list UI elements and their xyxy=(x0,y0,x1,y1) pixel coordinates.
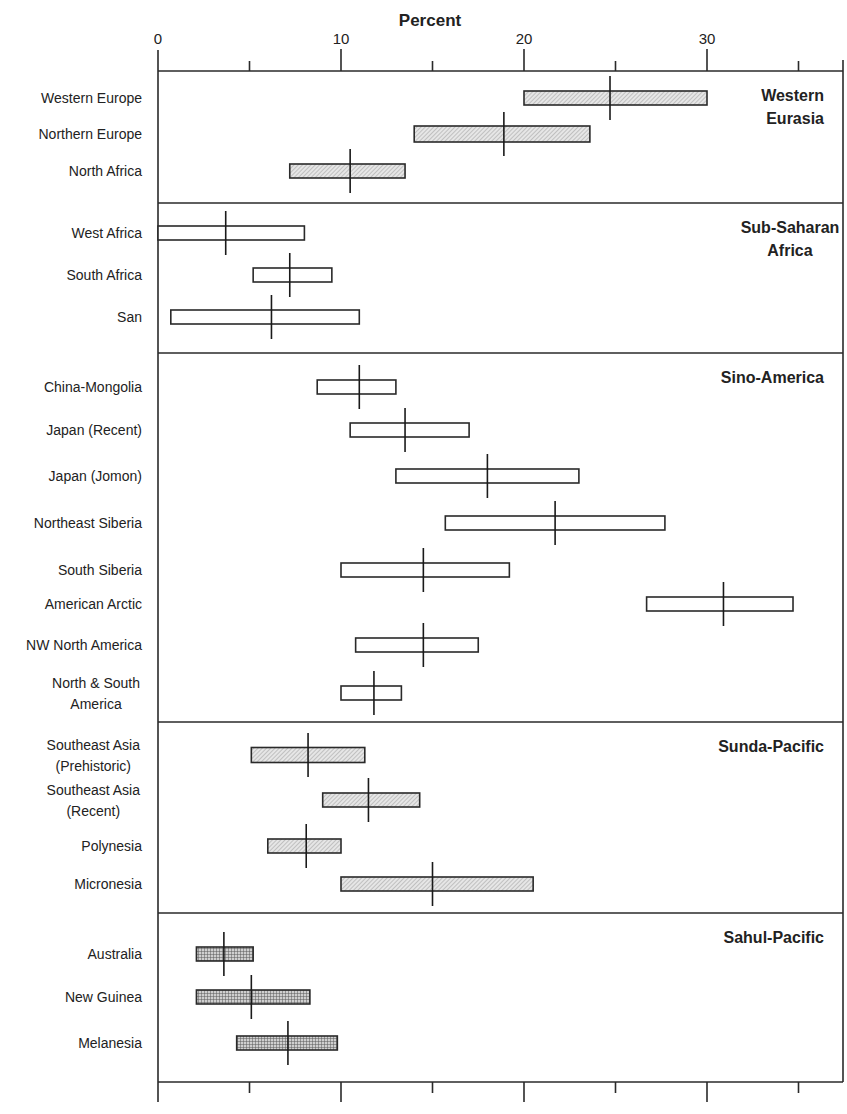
data-row: NW North America xyxy=(26,623,478,667)
chart-panels: WesternEurasiaWestern EuropeNorthern Eur… xyxy=(26,71,843,1082)
data-row: Southeast Asia(Prehistoric) xyxy=(47,733,365,777)
data-row: Japan (Jomon) xyxy=(49,454,579,498)
row-label: Polynesia xyxy=(81,838,142,854)
range-bar xyxy=(524,91,707,105)
data-row: South Africa xyxy=(67,253,332,297)
group-label: Sino-America xyxy=(721,369,824,386)
x-tick-label: 10 xyxy=(333,30,350,47)
x-tick-label: 0 xyxy=(154,30,162,47)
row-label: (Prehistoric) xyxy=(56,758,131,774)
data-row: Micronesia xyxy=(74,862,533,906)
row-label: Northern Europe xyxy=(38,126,142,142)
group-label: Western xyxy=(761,87,824,104)
row-label: North Africa xyxy=(69,163,142,179)
x-tick-label: 30 xyxy=(699,30,716,47)
row-label: West Africa xyxy=(71,225,142,241)
data-row: Japan (Recent) xyxy=(46,408,469,452)
row-label: South Siberia xyxy=(58,562,142,578)
range-bar xyxy=(268,839,341,853)
row-label: Melanesia xyxy=(78,1035,142,1051)
row-label: South Africa xyxy=(67,267,143,283)
range-bar xyxy=(237,1036,338,1050)
range-bar xyxy=(290,164,405,178)
data-row: Western Europe xyxy=(41,76,707,120)
range-bar xyxy=(158,226,304,240)
row-label: American Arctic xyxy=(45,596,142,612)
range-bar xyxy=(196,990,309,1004)
range-bar xyxy=(341,686,401,700)
row-label: Western Europe xyxy=(41,90,142,106)
panel-sahul-pacific: Sahul-PacificAustraliaNew GuineaMelanesi… xyxy=(65,913,843,1065)
panel-western-eurasia: WesternEurasiaWestern EuropeNorthern Eur… xyxy=(38,76,824,193)
data-row: South Siberia xyxy=(58,548,509,592)
x-axis-title: Percent xyxy=(399,11,462,30)
data-row: Southeast Asia(Recent) xyxy=(47,778,420,822)
data-row: China-Mongolia xyxy=(44,365,396,409)
row-label: China-Mongolia xyxy=(44,379,142,395)
row-label: (Recent) xyxy=(66,803,120,819)
x-tick-label: 20 xyxy=(516,30,533,47)
row-label: America xyxy=(70,696,122,712)
data-row: North & SouthAmerica xyxy=(52,671,401,715)
row-label: North & South xyxy=(52,675,140,691)
top-x-axis: 0102030 xyxy=(154,30,843,71)
range-bar xyxy=(323,793,420,807)
data-row: Melanesia xyxy=(78,1021,337,1065)
group-label: Sub-Saharan xyxy=(741,219,840,236)
range-bar xyxy=(414,126,590,142)
row-label: Southeast Asia xyxy=(47,782,141,798)
group-label: Sunda-Pacific xyxy=(718,738,824,755)
group-label: Africa xyxy=(767,242,812,259)
data-row: Australia xyxy=(88,932,254,976)
range-bar xyxy=(253,268,332,282)
row-label: San xyxy=(117,309,142,325)
data-row: San xyxy=(117,295,359,339)
data-row: Polynesia xyxy=(81,824,341,868)
range-bar xyxy=(317,380,396,394)
data-row: New Guinea xyxy=(65,975,310,1019)
row-label: Northeast Siberia xyxy=(34,515,142,531)
row-label: Australia xyxy=(88,946,143,962)
row-label: Southeast Asia xyxy=(47,737,141,753)
panel-sunda-pacific: Sunda-PacificSoutheast Asia(Prehistoric)… xyxy=(47,722,843,906)
range-bar xyxy=(196,947,253,961)
data-row: North Africa xyxy=(69,149,405,193)
group-label: Sahul-Pacific xyxy=(724,929,825,946)
data-row: West Africa xyxy=(71,211,304,255)
range-bar xyxy=(356,638,479,652)
panel-sub-saharan-africa: Sub-SaharanAfricaWest AfricaSouth Africa… xyxy=(67,203,844,339)
row-label: NW North America xyxy=(26,637,142,653)
bottom-x-axis xyxy=(158,1082,843,1102)
row-label: Japan (Jomon) xyxy=(49,468,142,484)
range-bar xyxy=(350,423,469,437)
range-bar xyxy=(341,877,533,891)
group-label: Eurasia xyxy=(766,110,824,127)
row-label: Micronesia xyxy=(74,876,142,892)
range-bar xyxy=(647,597,793,611)
range-bar xyxy=(171,310,359,324)
data-row: Northern Europe xyxy=(38,112,589,156)
row-label: New Guinea xyxy=(65,989,142,1005)
range-bar-chart: Percent 0102030 WesternEurasiaWestern Eu… xyxy=(0,0,847,1114)
data-row: Northeast Siberia xyxy=(34,501,665,545)
range-bar xyxy=(341,563,509,577)
row-label: Japan (Recent) xyxy=(46,422,142,438)
data-row: American Arctic xyxy=(45,582,793,626)
panel-sino-america: Sino-AmericaChina-MongoliaJapan (Recent)… xyxy=(26,353,843,715)
